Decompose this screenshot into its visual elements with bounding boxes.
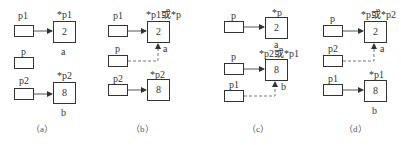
panel-d: p *p或*p2 2 a p2 p1 *p1 8 b （d）	[295, 0, 401, 145]
caption: （c）	[247, 122, 269, 135]
caption: （b）	[131, 122, 154, 135]
panel-a: p1 *p1 2 a p p2 *p2 8 b （a）	[0, 0, 100, 145]
caption: （d）	[344, 122, 367, 135]
panel-c: p *p 2 a p *p2或*p1 8 b p1 （c）	[195, 0, 300, 145]
caption: （a）	[31, 122, 53, 135]
panel-b: p1 *p1或*p 2 a p p2 *p2 8 （b）	[95, 0, 195, 145]
